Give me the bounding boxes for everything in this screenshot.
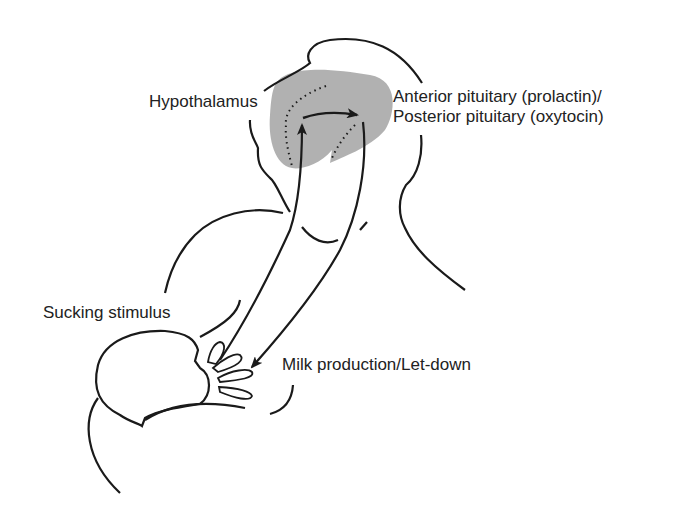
infant-head	[96, 331, 209, 426]
label-hypothalamus: Hypothalamus	[149, 92, 258, 112]
infant-back	[145, 404, 245, 420]
diagram-canvas: Hypothalamus Anterior pituitary (prolact…	[0, 0, 688, 517]
label-sucking-stimulus: Sucking stimulus	[43, 303, 171, 323]
label-pituitary-line2: Posterior pituitary (oxytocin)	[393, 107, 604, 127]
chin	[302, 227, 338, 242]
neck-right	[400, 135, 465, 290]
breast-curve	[200, 300, 240, 337]
label-pituitary-line1: Anterior pituitary (prolactin)/	[393, 87, 602, 107]
mammary-lobules	[208, 342, 252, 399]
areola-arc	[270, 385, 293, 414]
jaw-tick	[360, 222, 367, 230]
label-milk-production: Milk production/Let-down	[282, 355, 471, 375]
illustration	[0, 0, 688, 517]
